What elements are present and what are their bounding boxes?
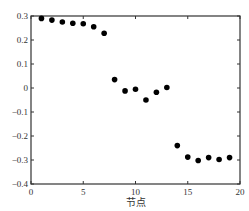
scatter-chart: 0.30.20.10−0.1−0.2−0.3−0.4 05101520 节点 bbox=[0, 0, 249, 211]
data-point bbox=[133, 86, 139, 92]
y-tick-label: 0.1 bbox=[17, 59, 28, 69]
data-point bbox=[70, 20, 76, 26]
data-point bbox=[206, 155, 212, 161]
x-tick-label: 0 bbox=[29, 187, 34, 197]
y-tick-label: 0.2 bbox=[17, 35, 28, 45]
data-point bbox=[185, 154, 191, 160]
data-point bbox=[60, 19, 66, 25]
y-tick-label: −0.3 bbox=[12, 155, 29, 165]
x-axis-ticks: 05101520 bbox=[29, 16, 245, 197]
x-tick-label: 10 bbox=[131, 187, 141, 197]
data-point bbox=[39, 16, 45, 22]
data-point bbox=[122, 88, 128, 94]
data-point bbox=[216, 157, 222, 163]
data-point bbox=[101, 30, 107, 36]
data-point bbox=[91, 24, 97, 30]
y-tick-label: 0.3 bbox=[17, 11, 29, 21]
data-point bbox=[175, 143, 181, 149]
x-axis-label: 节点 bbox=[126, 197, 146, 208]
data-point bbox=[112, 77, 118, 83]
y-tick-label: −0.2 bbox=[12, 131, 28, 141]
data-point bbox=[195, 158, 201, 164]
data-point bbox=[164, 85, 170, 91]
y-tick-label: −0.1 bbox=[12, 107, 28, 117]
y-tick-label: 0 bbox=[24, 83, 29, 93]
data-point bbox=[154, 90, 160, 96]
y-axis-ticks: 0.30.20.10−0.1−0.2−0.3−0.4 bbox=[12, 11, 240, 189]
data-point bbox=[227, 155, 233, 161]
data-point bbox=[143, 97, 149, 103]
data-points bbox=[39, 16, 233, 164]
data-point bbox=[80, 21, 86, 27]
x-tick-label: 15 bbox=[183, 187, 193, 197]
x-tick-label: 5 bbox=[81, 187, 86, 197]
y-tick-label: −0.4 bbox=[12, 179, 29, 189]
data-point bbox=[49, 17, 55, 23]
x-tick-label: 20 bbox=[236, 187, 246, 197]
